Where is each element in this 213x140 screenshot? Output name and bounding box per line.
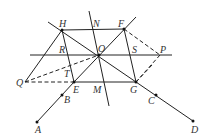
label-E: E bbox=[72, 84, 79, 95]
label-A: A bbox=[34, 124, 42, 135]
label-O: O bbox=[98, 43, 105, 54]
label-H: H bbox=[58, 18, 67, 29]
point-D bbox=[192, 120, 195, 123]
label-P: P bbox=[159, 44, 166, 55]
dashed-GO-ext bbox=[136, 65, 152, 82]
label-D: D bbox=[190, 124, 199, 135]
label-B: B bbox=[64, 94, 70, 105]
point-C bbox=[155, 94, 158, 97]
dashed-PG bbox=[136, 55, 160, 82]
dashed-QO bbox=[25, 55, 99, 82]
label-M: M bbox=[92, 84, 102, 95]
label-G: G bbox=[130, 84, 137, 95]
line-GD bbox=[136, 82, 193, 121]
label-N: N bbox=[92, 18, 101, 29]
line-QH bbox=[25, 30, 62, 82]
geometry-diagram: H N F R O S P Q T E M G B A C D bbox=[0, 0, 213, 140]
label-F: F bbox=[117, 18, 125, 29]
label-Q: Q bbox=[16, 77, 24, 88]
label-S: S bbox=[132, 44, 137, 55]
label-C: C bbox=[148, 95, 155, 106]
label-T: T bbox=[64, 68, 71, 79]
label-R: R bbox=[58, 44, 65, 55]
